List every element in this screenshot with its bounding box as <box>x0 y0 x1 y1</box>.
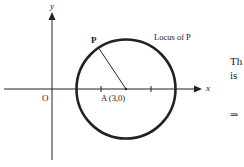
y-axis-label: y <box>50 2 54 11</box>
center-point <box>125 88 127 90</box>
point-p-label: P <box>91 36 97 45</box>
side-text-line1: Th <box>230 56 242 67</box>
locus-label: Locus of P <box>154 33 191 42</box>
x-axis-label: x <box>206 84 210 93</box>
origin-label: O <box>42 94 49 103</box>
implies-arrow-icon: ⇒ <box>230 110 238 120</box>
radius-line <box>98 47 126 89</box>
x-axis-arrow-icon <box>194 86 202 93</box>
center-label: A (3,0) <box>101 94 125 103</box>
y-axis-arrow-icon <box>49 12 56 20</box>
side-text-line2: is <box>230 70 237 81</box>
